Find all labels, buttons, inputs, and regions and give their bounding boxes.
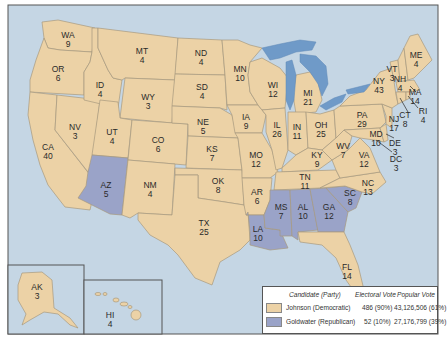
state-label-mn: MN10 [233, 64, 246, 83]
legend-candidate: Goldwater (Republican) [286, 318, 355, 325]
state-label-tx: TX25 [199, 218, 210, 237]
state-label-nj: NJ17 [389, 114, 399, 133]
legend-swatch-republican [266, 317, 282, 327]
hawaii-inset [84, 280, 162, 334]
state-label-wi: WI12 [268, 80, 278, 99]
legend-header-popular: Popular Vote [397, 291, 435, 298]
state-label-al: AL10 [298, 202, 309, 221]
state-label-ny: NY43 [373, 76, 385, 95]
legend-header-electoral: Electoral Vote [355, 291, 396, 298]
legend-popular: 27,176,799 (39%) [394, 318, 446, 325]
state-label-md: MD10 [369, 129, 382, 148]
state-label-pa: PA29 [357, 110, 368, 129]
state-label-fl: FL14 [342, 262, 352, 281]
state-label-il: IL26 [272, 120, 282, 139]
legend-electoral: 486 (90%) [362, 304, 392, 311]
legend-candidate: Johnson (Democratic) [286, 304, 351, 311]
state-label-ga: GA12 [323, 202, 336, 221]
legend-popular: 43,126,506 (61%) [394, 304, 446, 311]
legend-electoral: 52 (10%) [364, 318, 391, 325]
state-label-la: LA10 [253, 224, 264, 243]
state-label-nc: NC13 [362, 178, 374, 197]
state-label-ca: CA40 [42, 142, 54, 161]
legend-row-goldwater: Goldwater (Republican) 52 (10%) 27,176,7… [266, 317, 436, 327]
state-label-mi: MI21 [303, 88, 313, 107]
legend-row-johnson: Johnson (Democratic) 486 (90%) 43,126,50… [266, 303, 436, 313]
state-label-tn: TN11 [299, 172, 310, 191]
legend: Candidate (Party) Electoral Vote Popular… [262, 286, 438, 334]
legend-swatch-democratic [266, 303, 282, 313]
legend-header-candidate: Candidate (Party) [289, 291, 341, 298]
state-label-in: IN11 [293, 122, 302, 141]
state-label-oh: OH25 [315, 120, 328, 139]
state-label-va: VA12 [359, 150, 370, 169]
